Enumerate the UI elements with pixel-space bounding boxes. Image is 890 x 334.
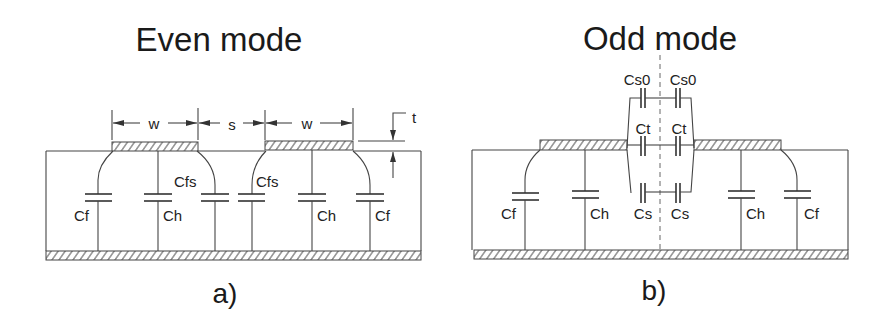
even-mode-title: Even mode	[136, 21, 303, 58]
even-ch-left-label: Ch	[163, 207, 182, 224]
odd-cs-right-label: Cs	[671, 205, 689, 222]
dim-w-right: w	[301, 115, 313, 132]
odd-cf-left-label: Cf	[501, 205, 517, 222]
dim-w-left: w	[148, 115, 160, 132]
odd-strip-right	[694, 140, 781, 150]
odd-mode-panel: Odd mode Cs0 Cs0	[472, 20, 848, 306]
even-cf-left-capacitor: Cf	[74, 151, 113, 251]
odd-ground-plane	[474, 250, 848, 259]
odd-cs0-right-label: Cs0	[670, 71, 697, 88]
even-strip-left	[112, 142, 198, 151]
odd-ct-left-label: Ct	[636, 120, 652, 137]
dim-t: t	[412, 109, 417, 126]
dim-s: s	[228, 116, 236, 133]
odd-ch-left-label: Ch	[590, 205, 609, 222]
even-cfs-right-capacitor: Cfs	[238, 151, 279, 251]
odd-ch-left-capacitor: Ch	[572, 150, 609, 250]
even-cf-left-label: Cf	[74, 207, 90, 224]
even-cfs-left-label: Cfs	[174, 173, 197, 190]
odd-mode-title: Odd mode	[583, 20, 737, 57]
odd-ch-right-label: Ch	[746, 205, 765, 222]
coupled-microstrip-diagram: Even mode w	[0, 0, 890, 334]
odd-cs-left-label: Cs	[634, 205, 652, 222]
even-cf-right-label: Cf	[375, 207, 391, 224]
odd-strip-left	[540, 140, 627, 150]
even-ground-plane	[46, 251, 421, 260]
odd-cf-left-capacitor: Cf	[501, 150, 540, 250]
odd-ch-right-capacitor: Ch	[728, 150, 765, 250]
odd-cf-right-capacitor: Cf	[781, 150, 820, 250]
even-cfs-left-capacitor: Cfs	[174, 151, 229, 251]
even-ch-right-capacitor: Ch	[298, 150, 336, 251]
even-mode-panel: Even mode w	[46, 21, 421, 309]
odd-caption: b)	[642, 275, 667, 306]
odd-ct-right-label: Ct	[672, 120, 688, 137]
even-cf-right-capacitor: Cf	[353, 151, 391, 251]
even-ch-right-label: Ch	[317, 207, 336, 224]
even-cfs-right-label: Cfs	[256, 173, 279, 190]
even-strip-right	[265, 141, 353, 150]
even-ch-left-capacitor: Ch	[144, 151, 182, 251]
even-caption: a)	[213, 278, 238, 309]
odd-cs0-left-label: Cs0	[624, 71, 651, 88]
odd-cf-right-label: Cf	[804, 205, 820, 222]
